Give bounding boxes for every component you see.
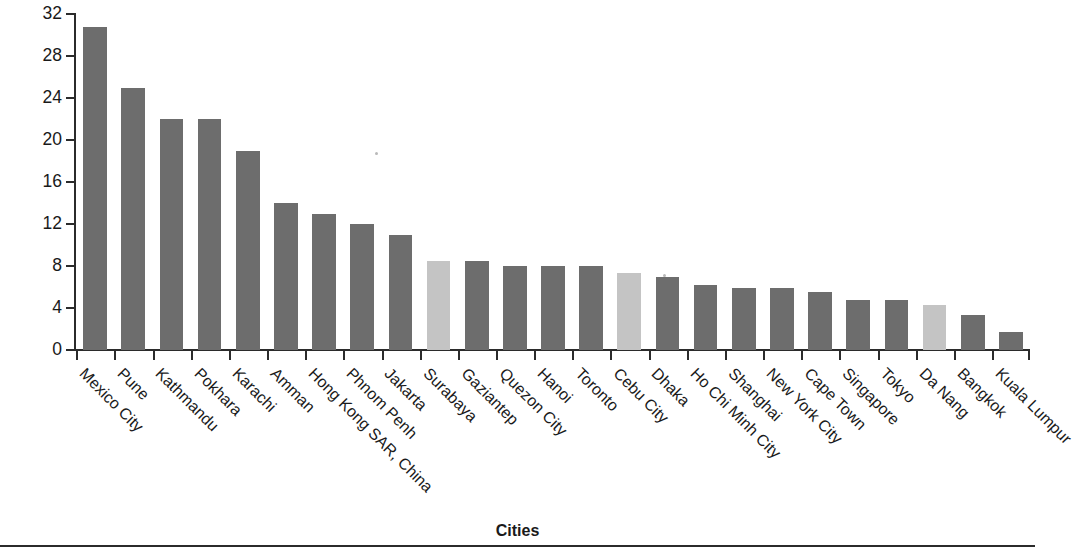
- x-axis-tick-label: Pune: [114, 365, 153, 404]
- x-axis-tick-label: Dhaka: [648, 365, 693, 410]
- bar: [503, 266, 527, 350]
- x-axis-tick-label-text: Bangkok: [954, 365, 1010, 421]
- bar: [846, 300, 870, 350]
- x-axis-tick: [267, 351, 269, 360]
- x-axis-tick: [153, 351, 155, 360]
- bar-slot: [190, 13, 228, 350]
- y-axis-tick: [66, 223, 74, 225]
- x-axis-tick-label: Karachi: [228, 365, 279, 416]
- bar-slot: [419, 13, 457, 350]
- x-axis-tick-label: Da Nang: [915, 365, 972, 422]
- x-axis-tick-label-text: Tokyo: [878, 365, 920, 407]
- x-axis-tick-label-text: Kathmandu: [153, 365, 223, 435]
- y-axis-tick: [66, 139, 74, 141]
- x-axis-tick: [687, 351, 689, 360]
- bar: [923, 305, 947, 350]
- bar-slot: [916, 13, 954, 350]
- x-axis-tick: [954, 351, 956, 360]
- bar-slot: [877, 13, 915, 350]
- x-axis-tick-label-text: Singapore: [840, 365, 904, 429]
- scan-speck: [375, 152, 378, 155]
- x-axis-tick: [763, 351, 765, 360]
- x-axis-tick-label: Cape Town: [801, 365, 870, 434]
- bar: [350, 224, 374, 350]
- y-axis-tick-label: 24: [16, 88, 62, 106]
- x-axis-tick-label: Gaziantep: [457, 365, 521, 429]
- bar-slot: [76, 13, 114, 350]
- x-axis-tick-label: Quezon City: [495, 365, 570, 440]
- y-axis-tick-label: 20: [16, 130, 62, 148]
- x-axis-tick-label: Bangkok: [953, 365, 1010, 422]
- x-axis-tick: [420, 351, 422, 360]
- x-axis-tick-label: Pokhara: [190, 365, 245, 420]
- x-axis-tick: [1028, 351, 1030, 360]
- plot-area: 048121620242832: [74, 13, 1030, 350]
- bar: [427, 261, 451, 350]
- x-axis-tick-label: Kuala Lumpur: [992, 365, 1075, 448]
- bar-slot: [381, 13, 419, 350]
- bar: [808, 292, 832, 350]
- x-axis-tick-label: Ho Chi Minh City: [686, 365, 784, 463]
- x-axis-title: Cities: [0, 522, 1035, 540]
- bar: [694, 285, 718, 350]
- x-axis-tick: [191, 351, 193, 360]
- bar-slot: [763, 13, 801, 350]
- x-axis-tick-label-text: Dhaka: [649, 365, 694, 410]
- x-axis-tick-label: Phnom Penh: [343, 365, 421, 443]
- bar-slot: [648, 13, 686, 350]
- x-axis-tick: [496, 351, 498, 360]
- bar-slot: [458, 13, 496, 350]
- x-axis-tick-label: Toronto: [572, 365, 622, 415]
- bar: [274, 203, 298, 350]
- x-axis-tick-label-text: Cape Town: [801, 365, 869, 433]
- bar: [617, 273, 641, 350]
- bar-slot: [725, 13, 763, 350]
- bar-series: [76, 13, 1030, 350]
- x-axis-tick-label-text: Jakarta: [382, 365, 431, 414]
- bar-slot: [954, 13, 992, 350]
- x-axis-tick-label: Amman: [267, 365, 319, 417]
- y-axis-tick-label: 16: [16, 172, 62, 190]
- x-axis-tick: [458, 351, 460, 360]
- bar: [160, 119, 184, 350]
- x-axis-tick-label: Surabaya: [419, 365, 480, 426]
- bar-slot: [801, 13, 839, 350]
- x-axis-tick-label-text: Toronto: [572, 365, 622, 415]
- x-axis-tick-label-text: Surabaya: [420, 365, 480, 425]
- x-axis-tick-label: Cebu City: [610, 365, 672, 427]
- x-axis-tick-label: New York City: [763, 365, 846, 448]
- bar: [656, 277, 680, 351]
- x-axis-tick: [801, 351, 803, 360]
- x-axis-tick: [725, 351, 727, 360]
- bar: [999, 332, 1023, 350]
- x-axis-tick: [572, 351, 574, 360]
- bar-slot: [343, 13, 381, 350]
- y-axis-tick-label: 12: [16, 214, 62, 232]
- bar-slot: [687, 13, 725, 350]
- bar: [732, 288, 756, 350]
- x-axis-tick-label-text: Pokhara: [191, 365, 245, 419]
- x-axis-tick: [305, 351, 307, 360]
- x-axis-tick-label-text: Phnom Penh: [344, 365, 421, 442]
- y-axis-tick-label: 4: [16, 298, 62, 316]
- y-axis-tick: [66, 55, 74, 57]
- y-axis-tick-label: 28: [16, 46, 62, 64]
- x-axis-tick: [534, 351, 536, 360]
- x-axis-tick-label: Jakarta: [381, 365, 431, 415]
- x-axis-tick-label: Shanghai: [724, 365, 785, 426]
- y-axis-tick-label: 8: [16, 256, 62, 274]
- bar: [389, 235, 413, 351]
- x-axis-tick-label: Tokyo: [877, 365, 919, 407]
- x-axis-tick-label-text: Mexico City: [76, 365, 146, 435]
- bar: [885, 300, 909, 350]
- bar: [121, 88, 145, 351]
- page-bottom-rule: [0, 545, 1035, 547]
- x-axis-tick: [610, 351, 612, 360]
- y-axis-tick: [66, 349, 74, 351]
- bar-slot: [267, 13, 305, 350]
- bar-slot: [992, 13, 1030, 350]
- bar-slot: [839, 13, 877, 350]
- bar-slot: [229, 13, 267, 350]
- x-axis-tick: [992, 351, 994, 360]
